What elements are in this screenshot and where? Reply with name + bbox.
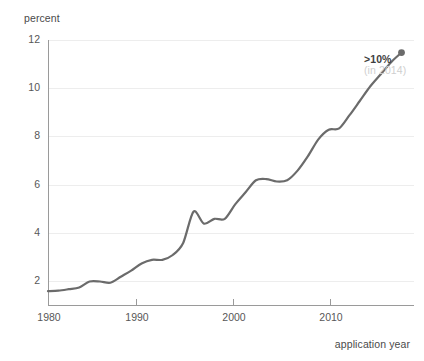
- y-tick-label-2: 2: [14, 274, 40, 286]
- x-tick-label-2010: 2010: [306, 311, 356, 323]
- endpoint-dot-marker: [398, 49, 405, 56]
- x-tick-label-1980: 1980: [24, 311, 74, 323]
- y-tick-label-4: 4: [14, 226, 40, 238]
- line-chart-plot: [0, 0, 424, 361]
- y-tick-label-6: 6: [14, 178, 40, 190]
- chart-figure: percent application year 12 10 8 6 4 2 1…: [0, 0, 424, 361]
- x-tick-label-1990: 1990: [112, 311, 162, 323]
- x-tick-label-2000: 2000: [209, 311, 259, 323]
- y-tick-label-8: 8: [14, 129, 40, 141]
- y-tick-label-10: 10: [14, 81, 40, 93]
- x-tick-marks: [49, 299, 331, 305]
- annotation-year-label: (in 2014): [364, 64, 406, 76]
- y-axis-title: percent: [24, 12, 60, 24]
- x-axis-title: application year: [335, 338, 410, 350]
- gridlines: [48, 41, 414, 282]
- y-tick-label-12: 12: [14, 33, 40, 45]
